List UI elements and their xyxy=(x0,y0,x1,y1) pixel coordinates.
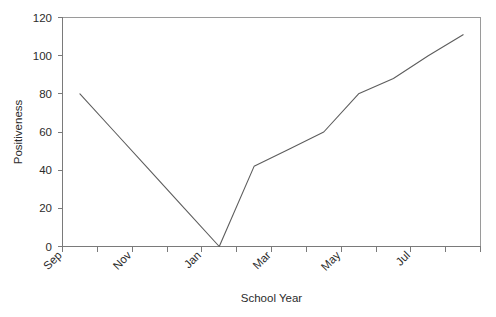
y-tick-label-0: 0 xyxy=(46,241,52,253)
x-tick-label-nov: Nov xyxy=(111,249,134,272)
line-chart: 0 20 40 60 80 100 120 Positiveness xyxy=(0,0,496,317)
y-tick-label-120: 120 xyxy=(33,12,52,24)
x-tick-label-jul: Jul xyxy=(393,249,412,268)
y-tick-label-40: 40 xyxy=(39,164,52,176)
y-tick-label-100: 100 xyxy=(33,50,52,62)
x-tick-label-jan: Jan xyxy=(182,249,204,271)
x-tick-label-may: May xyxy=(319,249,343,273)
y-axis-title: Positiveness xyxy=(12,99,24,164)
chart-figure: 0 20 40 60 80 100 120 Positiveness xyxy=(0,0,496,317)
y-tick-label-20: 20 xyxy=(39,202,52,214)
y-tick-label-60: 60 xyxy=(39,126,52,138)
y-axis-ticks xyxy=(58,18,63,247)
x-tick-label-sep: Sep xyxy=(41,249,64,272)
y-tick-label-80: 80 xyxy=(39,88,52,100)
x-axis-tick-labels: Sep Nov Jan Mar May Jul xyxy=(41,249,412,273)
x-axis-title: School Year xyxy=(241,292,303,304)
y-axis-tick-labels: 0 20 40 60 80 100 120 xyxy=(33,12,52,253)
x-tick-label-mar: Mar xyxy=(250,249,273,272)
data-series-line xyxy=(80,35,463,247)
